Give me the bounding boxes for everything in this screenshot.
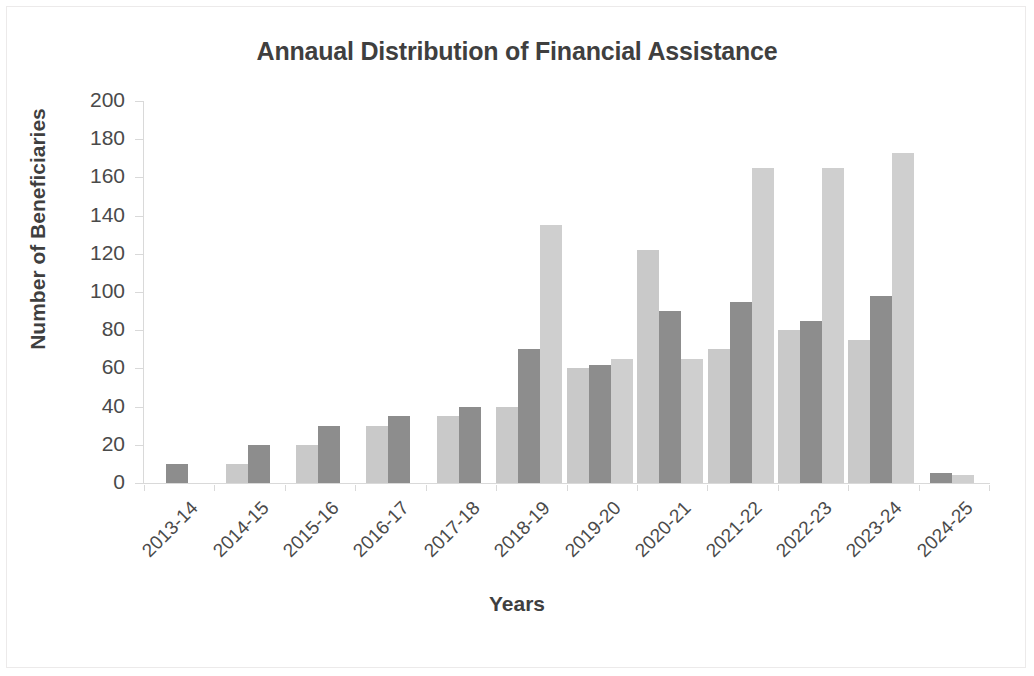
y-axis-tick <box>135 368 143 369</box>
bar <box>681 359 703 483</box>
bar <box>708 349 730 483</box>
y-axis-tick <box>135 254 143 255</box>
x-axis-tick <box>355 485 356 491</box>
y-axis-tick <box>135 216 143 217</box>
y-axis-tick <box>135 101 143 102</box>
x-axis-tick-labels: 2013-142014-152015-162016-172017-182018-… <box>144 485 989 585</box>
y-axis-tick <box>135 330 143 331</box>
y-axis-tick-label: 80 <box>61 317 125 341</box>
y-axis-tick <box>135 483 143 484</box>
bar <box>318 426 340 483</box>
y-axis-tick-label: 20 <box>61 432 125 456</box>
y-axis-tick-label: 160 <box>61 164 125 188</box>
bar <box>611 359 633 483</box>
bar <box>952 475 974 483</box>
bar <box>459 407 481 483</box>
bar <box>540 225 562 483</box>
y-axis-tick <box>135 177 143 178</box>
bar <box>518 349 540 483</box>
bar <box>848 340 870 483</box>
bar <box>366 426 388 483</box>
x-axis-title: Years <box>7 592 1027 616</box>
x-axis-tick <box>144 485 145 491</box>
x-axis-tick <box>285 485 286 491</box>
y-axis-tick <box>135 292 143 293</box>
x-axis-tick <box>989 485 990 491</box>
chart-frame: Annaual Distribution of Financial Assist… <box>6 6 1026 668</box>
y-axis-tick-label: 140 <box>61 203 125 227</box>
bar <box>437 416 459 483</box>
plot-area <box>144 101 989 483</box>
bar <box>822 168 844 483</box>
x-axis-tick <box>214 485 215 491</box>
bar <box>567 368 589 483</box>
x-axis-tick <box>707 485 708 491</box>
x-axis-tick <box>496 485 497 491</box>
bar <box>752 168 774 483</box>
x-axis-tick <box>637 485 638 491</box>
x-axis-tick <box>848 485 849 491</box>
y-axis-tick-label: 100 <box>61 279 125 303</box>
bar <box>800 321 822 483</box>
y-axis-tick-label: 180 <box>61 126 125 150</box>
x-axis-line <box>143 483 990 484</box>
chart-title: Annaual Distribution of Financial Assist… <box>7 37 1027 66</box>
bar <box>248 445 270 483</box>
y-axis-tick-label: 40 <box>61 394 125 418</box>
y-axis-tick-label: 120 <box>61 241 125 265</box>
bar <box>637 250 659 483</box>
bar <box>166 464 188 483</box>
y-axis-tick-label: 0 <box>61 470 125 494</box>
y-axis-tick-labels: 200180160140120100806040200 <box>53 101 125 484</box>
x-axis-tick <box>426 485 427 491</box>
y-axis-tick-label: 60 <box>61 355 125 379</box>
bar <box>388 416 410 483</box>
bar <box>226 464 248 483</box>
y-axis-title: Number of Beneficiaries <box>26 79 50 379</box>
bar <box>892 153 914 483</box>
x-axis-tick <box>567 485 568 491</box>
y-axis-tick <box>135 445 143 446</box>
x-axis-tick <box>919 485 920 491</box>
bar <box>496 407 518 483</box>
bar <box>778 330 800 483</box>
bar <box>296 445 318 483</box>
bar <box>730 302 752 483</box>
y-axis-tick <box>135 139 143 140</box>
bar <box>870 296 892 483</box>
x-axis-tick <box>778 485 779 491</box>
y-axis-tick <box>135 407 143 408</box>
bar <box>659 311 681 483</box>
bars-layer <box>144 101 989 483</box>
bar <box>930 473 952 483</box>
y-axis-tick-label: 200 <box>61 88 125 112</box>
bar <box>589 365 611 483</box>
